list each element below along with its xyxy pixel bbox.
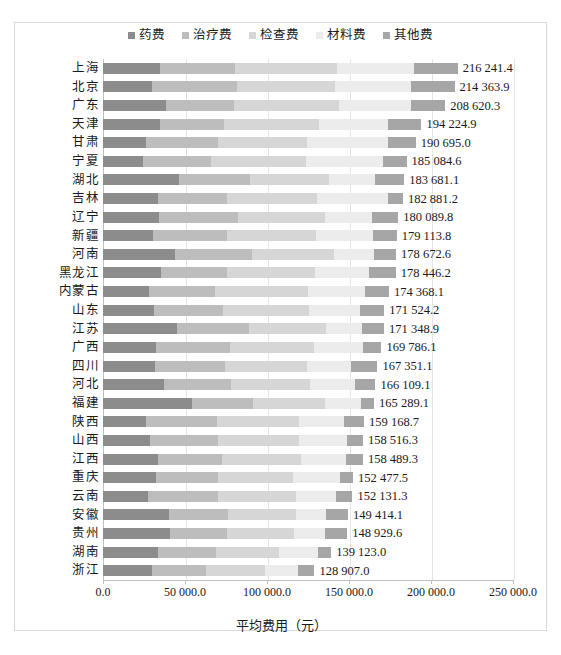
stacked-bar[interactable] bbox=[103, 81, 455, 92]
bar-row[interactable]: 陕西159 168.7 bbox=[15, 413, 548, 432]
bar-segment[interactable] bbox=[375, 174, 404, 185]
bar-segment[interactable] bbox=[227, 230, 317, 241]
bar-segment[interactable] bbox=[103, 454, 158, 465]
bar-segment[interactable] bbox=[317, 193, 388, 204]
bar-segment[interactable] bbox=[296, 491, 336, 502]
bar-segment[interactable] bbox=[169, 509, 228, 520]
stacked-bar[interactable] bbox=[103, 491, 352, 502]
bar-segment[interactable] bbox=[253, 398, 325, 409]
bar-segment[interactable] bbox=[146, 137, 218, 148]
bar-row[interactable]: 吉林182 881.2 bbox=[15, 189, 548, 208]
bar-row[interactable]: 贵州148 929.6 bbox=[15, 524, 548, 543]
bar-segment[interactable] bbox=[388, 137, 415, 148]
stacked-bar[interactable] bbox=[103, 565, 314, 576]
stacked-bar[interactable] bbox=[103, 509, 348, 520]
bar-row[interactable]: 安徽149 414.1 bbox=[15, 506, 548, 525]
bar-segment[interactable] bbox=[218, 435, 299, 446]
bar-segment[interactable] bbox=[160, 63, 235, 74]
bar-segment[interactable] bbox=[347, 435, 363, 446]
bar-row[interactable]: 云南152 131.3 bbox=[15, 487, 548, 506]
bar-segment[interactable] bbox=[218, 137, 307, 148]
legend-item-0[interactable]: 药费 bbox=[128, 29, 165, 42]
bar-segment[interactable] bbox=[414, 63, 457, 74]
bar-row[interactable]: 河北166 109.1 bbox=[15, 375, 548, 394]
bar-segment[interactable] bbox=[231, 379, 310, 390]
bar-segment[interactable] bbox=[103, 119, 160, 130]
bar-segment[interactable] bbox=[230, 342, 314, 353]
stacked-bar[interactable] bbox=[103, 63, 458, 74]
bar-segment[interactable] bbox=[103, 156, 143, 167]
bar-segment[interactable] bbox=[250, 174, 330, 185]
stacked-bar[interactable] bbox=[103, 137, 416, 148]
bar-segment[interactable] bbox=[237, 81, 334, 92]
bar-segment[interactable] bbox=[362, 323, 384, 334]
legend-item-3[interactable]: 材料费 bbox=[316, 29, 366, 42]
bar-row[interactable]: 天津194 224.9 bbox=[15, 115, 548, 134]
bar-row[interactable]: 重庆152 477.5 bbox=[15, 468, 548, 487]
stacked-bar[interactable] bbox=[103, 230, 397, 241]
bar-segment[interactable] bbox=[234, 100, 338, 111]
bar-segment[interactable] bbox=[103, 249, 175, 260]
stacked-bar[interactable] bbox=[103, 472, 353, 483]
bar-segment[interactable] bbox=[170, 528, 227, 539]
bar-segment[interactable] bbox=[218, 472, 293, 483]
stacked-bar[interactable] bbox=[103, 379, 375, 390]
bar-segment[interactable] bbox=[344, 416, 364, 427]
bar-segment[interactable] bbox=[158, 193, 226, 204]
legend-item-2[interactable]: 检查费 bbox=[249, 29, 299, 42]
bar-segment[interactable] bbox=[224, 119, 319, 130]
bar-segment[interactable] bbox=[103, 565, 152, 576]
stacked-bar[interactable] bbox=[103, 547, 331, 558]
bar-segment[interactable] bbox=[103, 509, 169, 520]
bar-segment[interactable] bbox=[225, 361, 308, 372]
bar-segment[interactable] bbox=[411, 100, 445, 111]
bar-segment[interactable] bbox=[388, 193, 403, 204]
bar-segment[interactable] bbox=[306, 156, 383, 167]
bar-segment[interactable] bbox=[164, 379, 231, 390]
bar-segment[interactable] bbox=[206, 565, 265, 576]
bar-segment[interactable] bbox=[218, 491, 296, 502]
bar-segment[interactable] bbox=[299, 416, 343, 427]
bar-segment[interactable] bbox=[103, 342, 156, 353]
bar-segment[interactable] bbox=[279, 547, 318, 558]
bar-segment[interactable] bbox=[307, 361, 351, 372]
stacked-bar[interactable] bbox=[103, 174, 404, 185]
stacked-bar[interactable] bbox=[103, 454, 363, 465]
bar-row[interactable]: 湖北183 681.1 bbox=[15, 171, 548, 190]
bar-segment[interactable] bbox=[211, 156, 306, 167]
bar-row[interactable]: 江苏171 348.9 bbox=[15, 320, 548, 339]
stacked-bar[interactable] bbox=[103, 156, 407, 167]
stacked-bar[interactable] bbox=[103, 435, 363, 446]
bar-segment[interactable] bbox=[192, 398, 253, 409]
bar-segment[interactable] bbox=[103, 100, 166, 111]
bar-segment[interactable] bbox=[326, 323, 363, 334]
stacked-bar[interactable] bbox=[103, 398, 374, 409]
bar-segment[interactable] bbox=[319, 119, 388, 130]
stacked-bar[interactable] bbox=[103, 286, 389, 297]
bar-row[interactable]: 宁夏185 084.6 bbox=[15, 152, 548, 171]
bar-segment[interactable] bbox=[314, 342, 363, 353]
stacked-bar[interactable] bbox=[103, 193, 403, 204]
bar-segment[interactable] bbox=[156, 342, 230, 353]
bar-segment[interactable] bbox=[152, 81, 237, 92]
bar-segment[interactable] bbox=[103, 230, 153, 241]
bar-segment[interactable] bbox=[374, 249, 396, 260]
bar-segment[interactable] bbox=[143, 156, 211, 167]
bar-row[interactable]: 内蒙古174 368.1 bbox=[15, 282, 548, 301]
bar-segment[interactable] bbox=[103, 193, 158, 204]
bar-segment[interactable] bbox=[227, 267, 315, 278]
bar-segment[interactable] bbox=[103, 63, 160, 74]
bar-segment[interactable] bbox=[310, 379, 355, 390]
bar-segment[interactable] bbox=[154, 305, 223, 316]
bar-segment[interactable] bbox=[146, 416, 217, 427]
bar-row[interactable]: 广西169 786.1 bbox=[15, 338, 548, 357]
bar-segment[interactable] bbox=[337, 63, 414, 74]
bar-segment[interactable] bbox=[103, 379, 164, 390]
bar-segment[interactable] bbox=[365, 286, 389, 297]
bar-segment[interactable] bbox=[103, 286, 149, 297]
bar-segment[interactable] bbox=[325, 528, 347, 539]
bar-segment[interactable] bbox=[152, 565, 206, 576]
bar-segment[interactable] bbox=[149, 286, 215, 297]
bar-segment[interactable] bbox=[150, 435, 218, 446]
bar-segment[interactable] bbox=[346, 454, 363, 465]
